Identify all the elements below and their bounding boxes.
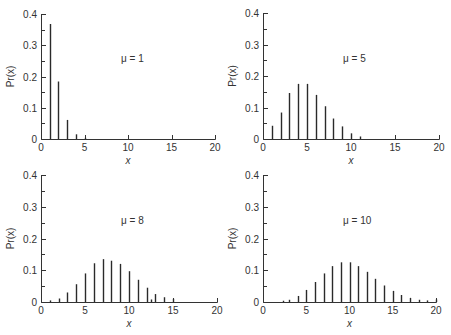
y-tick-label: 0.3: [23, 202, 37, 213]
x-tick-label: 0: [38, 142, 44, 153]
x-tick-label: 20: [433, 142, 445, 153]
y-tick-label: 0.3: [23, 40, 37, 51]
x-tick-label: 10: [345, 142, 357, 153]
y-tick-label: 0: [31, 134, 37, 145]
mu-annotation: μ = 10: [343, 215, 372, 226]
x-tick-label: 5: [82, 142, 88, 153]
x-tick-label: 10: [344, 305, 356, 316]
y-tick-label: 0.2: [245, 234, 259, 245]
panel-mu-8: 00.10.20.30.405101520xPr(x)μ = 8: [5, 170, 223, 329]
x-tick-label: 15: [387, 305, 399, 316]
mu-annotation: μ = 5: [343, 53, 366, 64]
x-axis-label: x: [346, 318, 353, 329]
x-tick-label: 5: [304, 142, 310, 153]
mu-annotation: μ = 1: [121, 53, 144, 64]
x-tick-label: 10: [122, 142, 134, 153]
x-tick-label: 0: [38, 305, 44, 316]
y-tick-label: 0.4: [245, 8, 259, 19]
x-tick-label: 20: [209, 142, 221, 153]
y-axis-label: Pr(x): [5, 228, 16, 250]
y-tick-label: 0.1: [23, 103, 37, 114]
y-tick-label: 0: [253, 134, 259, 145]
x-tick-label: 5: [303, 305, 309, 316]
y-tick-label: 0.2: [23, 234, 37, 245]
y-tick-label: 0.2: [245, 71, 259, 82]
y-tick-label: 0.1: [245, 265, 259, 276]
x-axis-label: x: [125, 155, 132, 166]
x-tick-label: 0: [260, 305, 266, 316]
panel-mu-5: 00.10.20.30.405101520xPr(x)μ = 5: [227, 8, 445, 166]
x-tick-label: 15: [166, 142, 178, 153]
x-tick-label: 20: [211, 305, 223, 316]
y-tick-label: 0.3: [245, 40, 259, 51]
y-tick-label: 0.1: [245, 103, 259, 114]
y-axis-label: Pr(x): [227, 65, 238, 87]
y-tick-label: 0.4: [23, 9, 37, 20]
panel-mu-1: 00.10.20.30.405101520xPr(x)μ = 1: [5, 9, 221, 166]
y-tick-label: 0.4: [245, 170, 259, 181]
y-axis-label: Pr(x): [227, 228, 238, 250]
x-tick-label: 5: [82, 305, 88, 316]
y-tick-label: 0.2: [23, 72, 37, 83]
y-tick-label: 0: [31, 297, 37, 308]
x-tick-label: 10: [123, 305, 135, 316]
mu-annotation: μ = 8: [121, 215, 144, 226]
panel-mu-10: 00.10.20.30.405101520xPr(x)μ = 10: [227, 170, 442, 329]
x-tick-label: 15: [167, 305, 179, 316]
x-axis-label: x: [126, 318, 133, 329]
x-tick-label: 0: [260, 142, 266, 153]
x-axis-label: x: [348, 155, 355, 166]
y-tick-label: 0.1: [23, 265, 37, 276]
poisson-distribution-figure: 00.10.20.30.405101520xPr(x)μ = 100.10.20…: [0, 0, 451, 335]
y-tick-label: 0.4: [23, 170, 37, 181]
x-tick-label: 15: [389, 142, 401, 153]
x-tick-label: 20: [430, 305, 442, 316]
y-tick-label: 0.3: [245, 202, 259, 213]
y-axis-label: Pr(x): [5, 66, 16, 88]
y-tick-label: 0: [253, 297, 259, 308]
